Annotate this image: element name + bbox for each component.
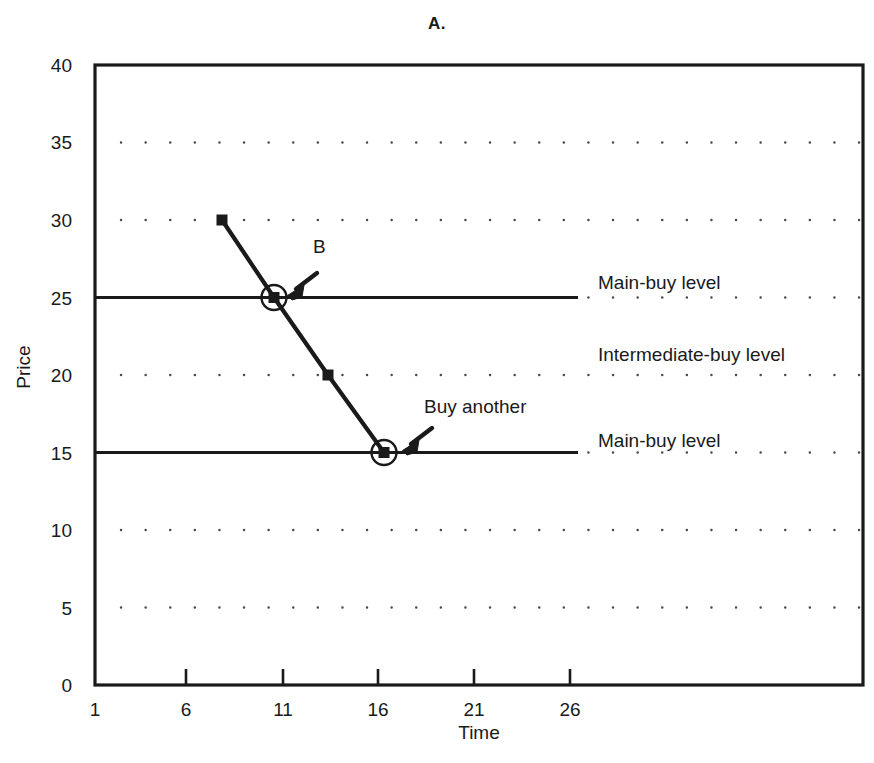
chart-figure: A. Price Time 40 35 30 25 20 15 10 5 0 1… xyxy=(0,0,874,763)
data-point-marker-1 xyxy=(217,215,228,226)
gridlines xyxy=(121,143,861,608)
reference-lines xyxy=(95,298,578,453)
chart-canvas xyxy=(0,0,874,763)
data-point-marker-2 xyxy=(269,292,280,303)
data-point-marker-3 xyxy=(323,370,334,381)
arrow-buy-another-icon xyxy=(403,428,433,455)
data-point-marker-4 xyxy=(379,447,390,458)
x-axis-ticks xyxy=(186,669,570,685)
arrow-b-icon xyxy=(288,273,318,300)
price-line xyxy=(222,220,384,453)
plot-frame xyxy=(95,65,863,685)
price-path xyxy=(217,215,390,459)
annotation-arrows xyxy=(288,273,433,455)
